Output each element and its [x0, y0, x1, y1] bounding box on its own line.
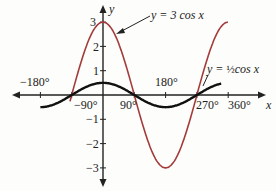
tick-label-180: 180°	[155, 76, 178, 88]
tick-label-y2: 2	[93, 41, 99, 53]
tick-label-ym3: −3	[86, 162, 99, 174]
y-axis-up-arrow	[100, 5, 107, 13]
tick-label-y1: 1	[93, 65, 99, 77]
x-axis-label: x	[266, 99, 271, 111]
tick-label-360: 360°	[228, 99, 251, 111]
plot-area	[0, 0, 276, 191]
chart-figure: y x y = 3 cos x y = ½cos x −180° −90° 90…	[0, 0, 276, 191]
tick-label-ym1: −1	[86, 113, 99, 125]
annotation-pointer-3cosx	[120, 16, 150, 32]
tick-label-minus90: −90°	[74, 99, 98, 111]
tick-label-270: 270°	[196, 99, 219, 111]
annotation-arrowhead-3cosx	[116, 28, 125, 34]
tick-label-y3: 3	[90, 16, 96, 28]
annotation-pointer-halfcosx	[203, 75, 208, 86]
annotation-halfcosx: y = ½cos x	[207, 63, 259, 75]
y-axis-down-arrow	[100, 179, 107, 187]
x-axis-right-arrow	[258, 92, 266, 99]
tick-label-90: 90°	[120, 99, 137, 111]
tick-label-minus180: −180°	[20, 76, 50, 88]
y-axis-label: y	[109, 3, 114, 15]
x-axis-left-arrow	[12, 92, 20, 99]
annotation-3cosx: y = 3 cos x	[151, 9, 204, 21]
tick-label-ym2: −2	[86, 138, 99, 150]
